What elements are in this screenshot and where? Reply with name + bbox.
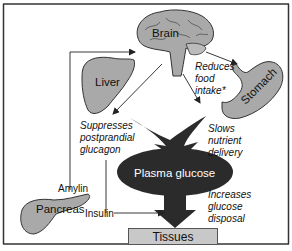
amylin-label: Amylin	[58, 183, 88, 195]
brain-label: Brain	[152, 27, 179, 39]
liver-label: Liver	[95, 76, 120, 88]
increases-glucose-disposal-text: Increases glucose disposal	[208, 189, 251, 225]
insulin-label: Insulin	[85, 208, 114, 220]
tissues-label: Tissues	[153, 230, 194, 244]
tissues-node: Tissues	[128, 228, 218, 245]
slows-nutrient-delivery-text: Slows nutrient delivery	[208, 123, 242, 159]
suppresses-glucagon-text: Suppresses postprandial glucagon	[80, 120, 134, 156]
pancreas-label: Pancreas	[36, 203, 85, 215]
reduces-food-intake-text: Reduces food intake*	[195, 61, 234, 97]
down-arrow	[154, 192, 196, 228]
plasma-glucose-label: Plasma glucose	[134, 167, 215, 179]
diagram-canvas: Brain Liver Stomach Pancreas Plasma gluc…	[0, 0, 292, 251]
